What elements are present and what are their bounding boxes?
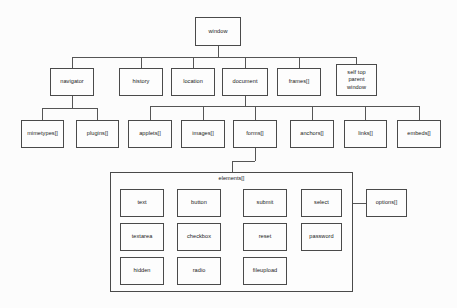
node-images[interactable]: images[] — [181, 120, 225, 148]
node-window[interactable]: window — [195, 17, 241, 46]
node-navigator[interactable]: navigator — [50, 68, 94, 96]
node-selftop[interactable]: self top parent window — [336, 64, 377, 96]
node-links[interactable]: links[] — [344, 120, 387, 148]
node-applets[interactable]: applets[] — [128, 120, 172, 148]
node-textarea[interactable]: textarea — [120, 223, 164, 251]
node-options[interactable]: options[] — [366, 189, 407, 217]
group-label-elements: elements[] — [110, 175, 353, 182]
node-text[interactable]: text — [120, 189, 164, 217]
node-select[interactable]: select — [301, 189, 342, 217]
node-submit[interactable]: submit — [243, 189, 287, 217]
node-mimetypes[interactable]: mimetypes[] — [21, 120, 64, 148]
node-forms[interactable]: forms[] — [233, 120, 277, 148]
node-embeds[interactable]: embeds[] — [397, 120, 441, 148]
node-history[interactable]: history — [119, 68, 163, 96]
node-radio[interactable]: radio — [177, 257, 221, 285]
node-anchors[interactable]: anchors[] — [290, 120, 334, 148]
node-fileupload[interactable]: fileupload — [243, 257, 287, 285]
node-frames[interactable]: frames[] — [277, 68, 321, 96]
node-plugins[interactable]: plugins[] — [76, 120, 119, 148]
node-document[interactable]: document — [222, 68, 268, 96]
node-reset[interactable]: reset — [243, 223, 287, 251]
node-hidden[interactable]: hidden — [120, 257, 164, 285]
node-checkbox[interactable]: checkbox — [177, 223, 221, 251]
node-location[interactable]: location — [171, 68, 215, 96]
bom-hierarchy-diagram: elements[]windownavigatorhistorylocation… — [0, 0, 457, 308]
node-button[interactable]: button — [177, 189, 221, 217]
node-password[interactable]: password — [301, 223, 342, 251]
